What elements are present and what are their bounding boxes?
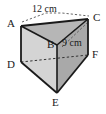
vertex-label-C: C: [93, 12, 100, 23]
vertex-label-E: E: [52, 97, 59, 108]
dimension-label-12cm: 12 cm: [32, 4, 57, 14]
vertex-label-A: A: [7, 18, 15, 29]
prism-diagram: A B C D E F 12 cm 9 cm: [0, 0, 106, 114]
vertex-label-D: D: [7, 59, 15, 70]
dimension-label-9cm: 9 cm: [62, 38, 82, 48]
vertex-label-B: B: [47, 39, 54, 50]
vertex-label-F: F: [92, 49, 98, 60]
